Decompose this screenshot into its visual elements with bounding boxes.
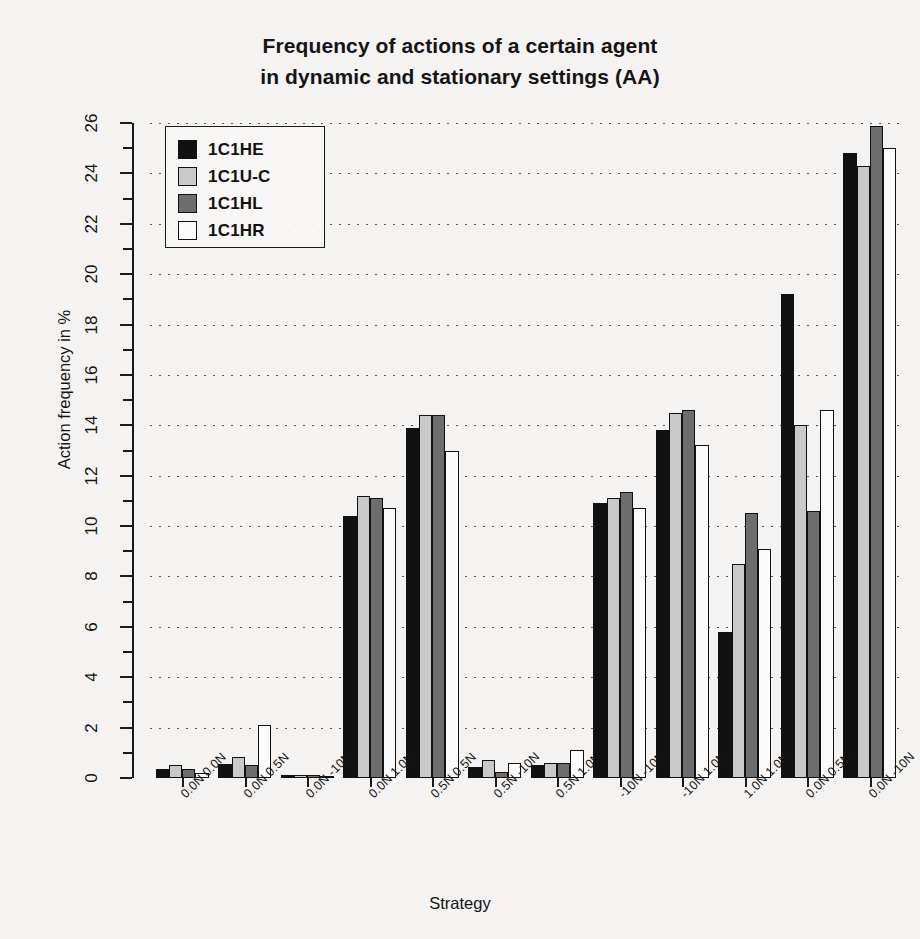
legend-label: 1C1HE (208, 140, 264, 160)
bar[interactable] (343, 516, 356, 778)
y-tick-label: 16 (64, 365, 120, 385)
legend-swatch-icon (178, 140, 197, 159)
bar[interactable] (820, 410, 833, 778)
chart-title-line-2: in dynamic and stationary settings (AA) (0, 61, 920, 92)
y-tick-label: 2 (64, 718, 120, 738)
bar-group (343, 123, 396, 778)
bar[interactable] (732, 564, 745, 778)
y-tick-minor (123, 651, 132, 653)
bar[interactable] (695, 445, 708, 778)
y-tick-minor (123, 601, 132, 603)
bar[interactable] (857, 166, 870, 778)
legend-item[interactable]: 1C1HL (178, 190, 324, 217)
bar[interactable] (445, 451, 458, 779)
y-tick-label: 18 (64, 315, 120, 335)
bar[interactable] (682, 410, 695, 778)
y-tick-minor (123, 248, 132, 250)
legend-swatch-icon (178, 221, 197, 240)
bar-group (843, 123, 896, 778)
legend[interactable]: 1C1HE 1C1U-C 1C1HL 1C1HR (165, 126, 325, 248)
y-tick-label: 14 (64, 415, 120, 435)
y-tick-minor (123, 450, 132, 452)
y-tick-label: 12 (64, 466, 120, 486)
chart-title: Frequency of actions of a certain agent … (0, 30, 920, 92)
bar-group (531, 123, 584, 778)
y-tick-label: 10 (64, 516, 120, 536)
bar[interactable] (843, 153, 856, 778)
bar[interactable] (357, 496, 370, 778)
y-tick-major (120, 223, 132, 225)
y-tick-major (120, 424, 132, 426)
y-tick-minor (123, 500, 132, 502)
y-tick-minor (123, 349, 132, 351)
y-tick-major (120, 273, 132, 275)
y-tick-major (120, 777, 132, 779)
bar[interactable] (294, 775, 307, 778)
bar-group (781, 123, 834, 778)
bar[interactable] (232, 757, 245, 778)
bar[interactable] (794, 425, 807, 778)
bar[interactable] (620, 492, 633, 778)
bar[interactable] (169, 765, 182, 778)
chart-title-line-1: Frequency of actions of a certain agent (0, 30, 920, 61)
bar-group (718, 123, 771, 778)
bar[interactable] (745, 513, 758, 778)
bar[interactable] (406, 428, 419, 778)
y-tick-label: 4 (64, 667, 120, 687)
legend-item[interactable]: 1C1HE (178, 136, 324, 163)
legend-swatch-icon (178, 194, 197, 213)
bar[interactable] (669, 413, 682, 778)
legend-label: 1C1HL (208, 194, 263, 214)
y-tick-major (120, 676, 132, 678)
bar-group (593, 123, 646, 778)
bar[interactable] (807, 511, 820, 778)
legend-label: 1C1U-C (208, 167, 271, 187)
bar[interactable] (883, 148, 896, 778)
bar-group (656, 123, 709, 778)
y-tick-major (120, 727, 132, 729)
bar[interactable] (482, 760, 495, 778)
y-tick-minor (123, 701, 132, 703)
bar[interactable] (758, 549, 771, 778)
y-tick-minor (123, 298, 132, 300)
bar[interactable] (870, 126, 883, 778)
bar[interactable] (281, 775, 294, 778)
bar[interactable] (432, 415, 445, 778)
bar[interactable] (544, 763, 557, 778)
y-tick-major (120, 475, 132, 477)
bar[interactable] (656, 430, 669, 778)
y-tick-minor (123, 752, 132, 754)
bar[interactable] (633, 508, 646, 778)
y-tick-label: 24 (64, 163, 120, 183)
y-tick-major (120, 374, 132, 376)
legend-item[interactable]: 1C1U-C (178, 163, 324, 190)
y-tick-major (120, 575, 132, 577)
bar[interactable] (781, 294, 794, 778)
legend-label: 1C1HR (208, 221, 265, 241)
bar[interactable] (383, 508, 396, 778)
y-tick-label: 20 (64, 264, 120, 284)
y-tick-minor (123, 399, 132, 401)
y-tick-minor (123, 198, 132, 200)
plot-area: 02468101214161820222426 0.0N 0.0N0.0N 0.… (150, 123, 900, 778)
bar[interactable] (607, 498, 620, 778)
y-tick-major (120, 122, 132, 124)
y-tick-major (120, 525, 132, 527)
legend-swatch-icon (178, 167, 197, 186)
x-axis-label: Strategy (0, 894, 920, 913)
legend-item[interactable]: 1C1HR (178, 217, 324, 244)
bar[interactable] (593, 503, 606, 778)
y-axis-line (132, 123, 134, 778)
bar[interactable] (419, 415, 432, 778)
y-tick-label: 22 (64, 214, 120, 234)
bar[interactable] (156, 769, 169, 778)
y-tick-minor (123, 147, 132, 149)
y-tick-label: 6 (64, 617, 120, 637)
y-tick-major (120, 324, 132, 326)
bar-group (468, 123, 521, 778)
y-tick-minor (123, 550, 132, 552)
y-tick-label: 26 (64, 113, 120, 133)
bar-group (406, 123, 459, 778)
bar[interactable] (370, 498, 383, 778)
y-tick-major (120, 172, 132, 174)
